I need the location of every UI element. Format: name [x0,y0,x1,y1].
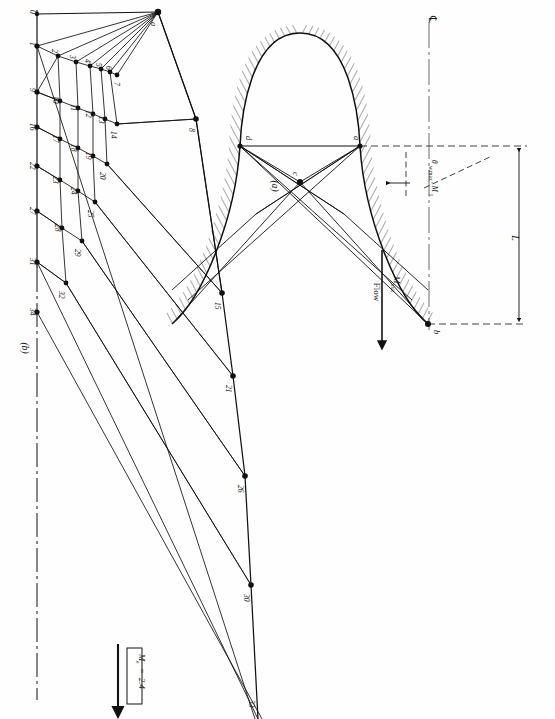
ray-34-to-exit [37,312,262,719]
figure-canvas: ℄ [0,0,555,719]
exit-mach-value: 2.4 [137,678,147,689]
point-a-label: a [352,136,362,140]
theta-symbol: θ [430,160,439,164]
node-label-6: 6 [104,66,113,70]
point-b-marker [425,321,431,327]
lower-wall-contour-throat [240,33,300,146]
exit-mach-annotation: M e = 2.4 [118,644,147,712]
flow-label: Flow [372,283,382,302]
lower-wall-hatch-throat [229,25,300,146]
point-a-marker [357,143,362,148]
node-label-9: 9 [28,88,37,92]
panel-a-tag: (a) [269,180,281,191]
exit-mach-text-group: M e = 2.4 [135,653,147,689]
panel-b-node-labels: 0 1 2 3 4 5 6 7 8 9 10 11 12 13 14 15 16… [28,10,256,708]
point-d-marker [237,143,242,148]
node-label-27: 27 [28,207,37,216]
node-label-7: 7 [112,82,121,87]
node-label-12: 12 [84,110,93,118]
node-label-19: 19 [84,152,93,160]
node-label-4: 4 [83,59,92,63]
node-label-24: 24 [69,187,78,195]
node-label-14: 14 [109,131,118,139]
lower-wall-hatch-diverge [164,146,240,324]
mach-exit-subscript: exit [390,284,396,293]
node-label-1: 1 [28,42,37,46]
length-dimension-label: L [510,234,521,241]
node-label-10: 10 [51,96,60,104]
node-label-3: 3 [68,54,77,59]
node-label-13: 13 [97,116,106,124]
upper-wall-contour-throat [300,33,360,146]
node-label-23: 23 [51,176,60,184]
theta-mach-subscript: L [428,194,434,198]
centerline-symbol: ℄ [427,15,439,23]
figure-page: ℄ [0,0,555,719]
panel-b-node-markers [34,9,253,588]
node-label-2: 2 [50,49,59,53]
node-label-30: 30 [242,593,251,602]
panel-a-group: ℄ [164,15,527,345]
exit-ray-to-b [240,146,428,324]
node-label-25: 25 [86,210,95,218]
point-c-marker [297,179,303,185]
node-label-17: 17 [51,135,60,144]
node-label-18: 18 [69,144,78,152]
throat-line-0a [37,12,158,14]
node-label-29: 29 [73,249,82,257]
node-label-20: 20 [98,172,107,180]
node-label-11: 11 [69,104,78,111]
panel-b-group: a 0 1 2 3 4 5 6 7 8 9 10 11 12 13 14 15 … [19,9,262,719]
node-label-0: 0 [28,10,37,14]
theta-subscript: w,max [428,166,434,181]
panel-b-tag: (b) [19,342,31,353]
node-label-8: 8 [187,128,196,132]
theta-mach-label: , M [430,182,439,193]
exit-mach-equals: = [137,668,147,674]
node-label-21: 21 [224,385,233,393]
node-label-32: 32 [57,290,66,299]
point-b-label: b [432,330,442,335]
node-label-15: 15 [213,302,222,310]
node-label-26: 26 [236,485,245,493]
upper-wall-hatch-throat [300,25,371,146]
node-label-22: 22 [28,162,37,170]
panel-b-apex-label: a [149,22,159,26]
point-d-label: d [244,136,254,141]
node-label-5: 5 [94,63,103,67]
upper-wall-hatch-diverge [360,146,436,324]
point-c-label: c [291,172,301,176]
theta-wmax-label-group: θ w,max , M L [428,160,439,198]
node-label-28: 28 [53,224,62,232]
node-label-31: 31 [28,257,37,266]
mach-exit-symbol: M [392,275,402,284]
node-label-16: 16 [28,123,37,131]
